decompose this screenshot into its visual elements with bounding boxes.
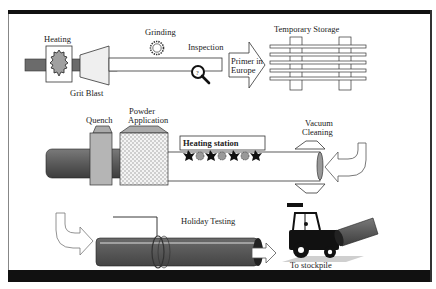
- powder-application-unit: Powder Application: [120, 106, 169, 185]
- quench-label: Quench: [86, 115, 113, 125]
- heating-label: Heating: [44, 34, 72, 44]
- primer-label-line2: Europe: [231, 65, 256, 75]
- grit-blast-label: Grit Blast: [70, 88, 104, 98]
- process-diagram: Heating Grit Blast Grinding ? Inspection…: [8, 10, 432, 282]
- holiday-testing-label: Holiday Testing: [181, 216, 236, 226]
- inspection-label: Inspection: [188, 42, 224, 52]
- coating-pipe-dark: [46, 149, 126, 178]
- svg-text:?: ?: [196, 70, 199, 76]
- heating-station-label: Heating station: [183, 138, 239, 148]
- powder-label-line2: Application: [128, 115, 169, 125]
- grinding-label: Grinding: [145, 27, 176, 37]
- vacuum-label-line2: Cleaning: [302, 127, 333, 137]
- finished-pipe: [96, 238, 263, 266]
- to-stockpile-label: To stockpile: [290, 260, 332, 270]
- temporary-storage-label: Temporary Storage: [274, 24, 339, 34]
- heating-unit: Heating: [44, 34, 72, 82]
- cleaned-pipe: [109, 58, 222, 71]
